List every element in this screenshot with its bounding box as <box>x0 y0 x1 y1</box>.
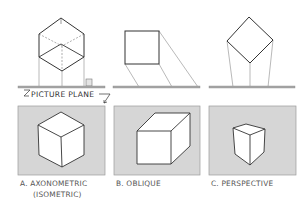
caption-a-line1: A. AXONOMETRIC <box>20 179 87 188</box>
picture-plane-lines <box>18 86 295 88</box>
perspective-diamond <box>227 17 273 63</box>
panel-a <box>18 106 105 175</box>
caption-b: B. OBLIQUE <box>116 179 161 188</box>
caption-c: C. PERSPECTIVE <box>211 179 273 188</box>
caption-a-line2: (ISOMETRIC) <box>33 190 82 199</box>
panel-b <box>114 106 200 175</box>
picture-plane-label: PICTURE PLANE <box>31 90 94 99</box>
picture-plane-label-group: PICTURE PLANE <box>24 90 110 103</box>
leader-arrow-right-icon <box>99 94 110 103</box>
view-c-top <box>227 17 273 87</box>
reference-square-icon <box>86 79 92 86</box>
view-a-top <box>39 18 92 87</box>
panel-c <box>209 106 296 175</box>
projection-diagram: PICTURE PLANE A. AXONOMETRIC (ISOMETRIC)… <box>0 0 308 204</box>
oblique-square <box>125 31 159 64</box>
leader-arrow-left-icon <box>24 90 30 96</box>
view-b-top <box>125 31 198 87</box>
